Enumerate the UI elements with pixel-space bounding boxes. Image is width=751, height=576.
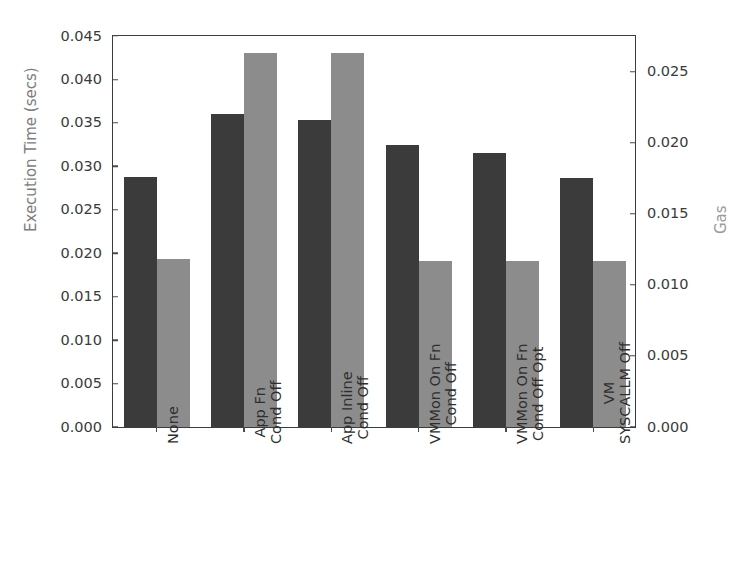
x-axis-tick-label-line2: Cond Off — [356, 371, 372, 444]
tick-mark-icon — [630, 71, 635, 72]
tick-mark-icon — [113, 209, 118, 210]
bar-gas — [157, 259, 190, 427]
x-axis-tick-label: VMMon On FnCond Off — [427, 344, 460, 444]
y-axis-left-tick-label: 0.000 — [60, 420, 113, 435]
y-axis-left-tick-label: 0.040 — [60, 72, 113, 87]
x-axis-tick-mark-icon — [243, 427, 244, 432]
y-axis-left-tick-label: 0.010 — [60, 333, 113, 348]
x-axis-tick-mark-icon — [331, 427, 332, 432]
x-axis-tick-label-line1: VMMon On Fn — [514, 344, 530, 444]
x-axis-tick-mark-icon — [593, 427, 594, 432]
x-axis-tick-label-line1: App Fn — [252, 387, 268, 437]
y-axis-left-title: Execution Time (secs) — [24, 67, 39, 232]
tick-mark-icon — [113, 79, 118, 80]
y-axis-right-tick-label: 0.025 — [635, 65, 689, 80]
y-axis-left-tick-label: 0.045 — [60, 29, 113, 44]
bar-execution-time — [386, 145, 419, 427]
tick-mark-icon — [113, 166, 118, 167]
tick-mark-icon — [113, 383, 118, 384]
x-axis-tick-label-line1: None — [165, 406, 181, 444]
x-axis-tick-mark-icon — [505, 427, 506, 432]
y-axis-left-tick-label: 0.025 — [60, 203, 113, 218]
tick-mark-icon — [113, 253, 118, 254]
bar-gas — [244, 53, 277, 427]
bar-chart-figure: Execution Time (secs) Gas 0.0000.0050.01… — [0, 0, 751, 576]
x-axis-tick-label-line2: Cond Off Opt — [530, 344, 546, 444]
x-axis-tick-label: VMSYSCALLM Off — [601, 342, 634, 444]
x-axis-tick-label: None — [165, 406, 181, 444]
y-axis-left-tick-label: 0.035 — [60, 116, 113, 131]
x-axis-tick-label-line1: VM — [601, 382, 617, 404]
bar-execution-time — [124, 177, 157, 427]
x-axis-tick-mark-icon — [156, 427, 157, 432]
tick-mark-icon — [113, 339, 118, 340]
x-axis-tick-label: App InlineCond Off — [339, 371, 372, 444]
plot-area: 0.0000.0050.0100.0150.0200.0250.0300.035… — [112, 35, 636, 428]
tick-mark-icon — [630, 284, 635, 285]
x-axis-tick-label: VMMon On FnCond Off Opt — [514, 344, 547, 444]
x-axis-tick-label: App FnCond Off — [252, 381, 285, 444]
y-axis-left-tick-label: 0.005 — [60, 376, 113, 391]
tick-mark-icon — [630, 213, 635, 214]
x-axis-tick-mark-icon — [418, 427, 419, 432]
y-axis-left-tick-label: 0.030 — [60, 159, 113, 174]
y-axis-right-title: Gas — [714, 205, 729, 234]
x-axis-tick-label-line2: SYSCALLM Off — [618, 342, 634, 444]
tick-mark-icon — [113, 35, 118, 36]
tick-mark-icon — [113, 296, 118, 297]
tick-mark-icon — [113, 426, 118, 427]
y-axis-right-tick-label: 0.010 — [635, 278, 689, 293]
bar-execution-time — [473, 153, 506, 427]
bar-execution-time — [298, 120, 331, 427]
y-axis-right-tick-label: 0.005 — [635, 349, 689, 364]
y-axis-right-tick-label: 0.000 — [635, 420, 689, 435]
y-axis-left-tick-label: 0.020 — [60, 246, 113, 261]
y-axis-left-tick-label: 0.015 — [60, 289, 113, 304]
x-axis-tick-label-line1: VMMon On Fn — [427, 344, 443, 444]
x-axis-tick-label-line2: Cond Off — [268, 381, 284, 444]
y-axis-right-tick-label: 0.020 — [635, 136, 689, 151]
y-axis-right-tick-label: 0.015 — [635, 207, 689, 222]
tick-mark-icon — [630, 142, 635, 143]
bar-execution-time — [560, 178, 593, 427]
x-axis-tick-label-line1: App Inline — [339, 371, 355, 444]
tick-mark-icon — [113, 122, 118, 123]
x-axis-tick-label-line2: Cond Off — [443, 344, 459, 444]
bar-execution-time — [211, 114, 244, 427]
